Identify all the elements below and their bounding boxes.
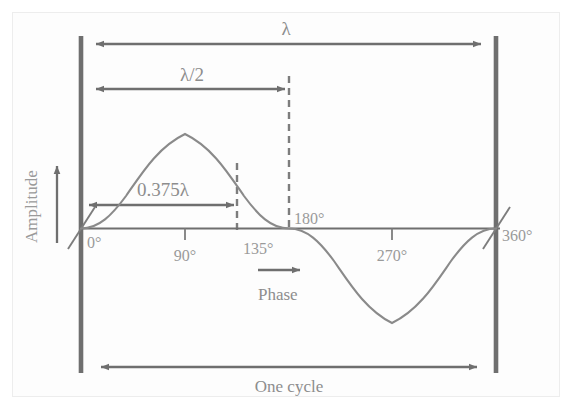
one-cycle-label: One cycle (255, 377, 323, 396)
sine-wave-phase-diagram: λ λ/2 0.375λ Phase One cycle Amplitude 0… (0, 0, 572, 409)
diagram-canvas: λ λ/2 0.375λ Phase One cycle Amplitude 0… (0, 0, 572, 409)
degree-label-135: 135° (243, 240, 273, 257)
phase-label: Phase (258, 285, 298, 304)
degree-label-90: 90° (174, 247, 196, 264)
wavelength-fraction-label: 0.375λ (137, 179, 190, 200)
wavelength-half-label: λ/2 (180, 64, 204, 85)
wavelength-full-label: λ (281, 18, 291, 39)
degree-label-0: 0° (87, 234, 101, 251)
amplitude-label: Amplitude (22, 170, 41, 243)
degree-label-360: 360° (502, 227, 532, 244)
degree-label-270: 270° (377, 247, 407, 264)
degree-label-180: 180° (294, 210, 324, 227)
